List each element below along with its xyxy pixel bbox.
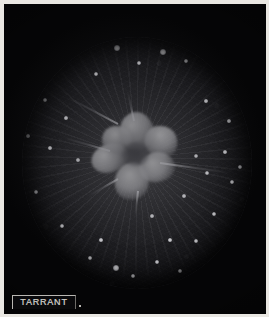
star-point — [168, 238, 171, 241]
nucleus-lobe — [98, 121, 136, 158]
signature-plate: TARRANT — [12, 295, 76, 309]
star-point — [212, 212, 217, 217]
photographic-plate-figure: TARRANT — [0, 0, 269, 317]
star-point — [155, 260, 160, 265]
star-point — [94, 72, 99, 77]
star-point — [43, 98, 48, 103]
nucleus-spike — [64, 137, 111, 152]
nucleus-spike — [134, 191, 139, 217]
star-point — [160, 49, 166, 55]
star-point — [184, 59, 189, 64]
nucleus-spike — [160, 162, 230, 174]
star-point — [150, 214, 153, 217]
photograph-card: TARRANT — [4, 4, 266, 314]
star-point — [227, 119, 230, 122]
nucleus-spike — [88, 178, 118, 197]
emulsion-texture — [22, 37, 252, 289]
bright-nucleus — [89, 112, 185, 204]
star-point — [182, 194, 185, 197]
nucleus-spike — [68, 97, 118, 125]
star-point — [88, 256, 93, 261]
star-point — [76, 158, 79, 161]
nucleus-lobe — [139, 120, 183, 163]
star-point — [204, 99, 207, 102]
nucleus-dark-core — [123, 142, 149, 166]
star-point — [223, 150, 226, 153]
nebular-halo — [55, 81, 220, 246]
star-point — [194, 239, 199, 244]
star-point — [230, 180, 235, 185]
radial-streaks — [22, 39, 252, 277]
star-point — [113, 265, 119, 271]
star-point — [60, 224, 65, 229]
nucleus-lobe — [116, 109, 157, 153]
star-point — [178, 269, 183, 274]
nucleus-lobe — [88, 139, 133, 177]
star-point — [34, 190, 39, 195]
star-point — [26, 134, 29, 137]
nucleus-spike — [127, 91, 135, 121]
nucleus-lobe — [111, 158, 153, 203]
signature-text: TARRANT — [20, 298, 67, 307]
star-point — [114, 45, 120, 51]
telescope-field-disc — [22, 37, 252, 289]
star-point — [137, 61, 142, 66]
field-vignette — [22, 37, 252, 289]
star-point — [205, 171, 210, 176]
star-point — [194, 154, 199, 159]
star-point — [131, 274, 136, 279]
star-point — [99, 238, 102, 241]
star-point — [238, 165, 243, 170]
star-point — [48, 146, 51, 149]
star-point — [64, 116, 67, 119]
nucleus-lobe — [137, 150, 177, 185]
signature-dot — [79, 305, 81, 307]
